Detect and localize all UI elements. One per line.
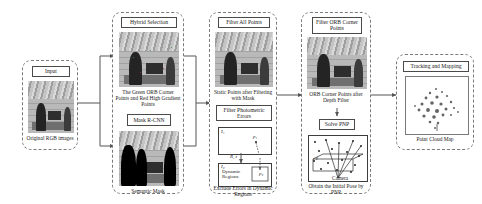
stage-filter-orb-corner-points[interactable]: Filter ORB Corner Points ORB Corner Poin… (301, 12, 371, 194)
input-thumbnail (28, 81, 74, 133)
stage-tracking-title: Tracking and Mapping (403, 61, 469, 72)
pnp-plane-label: I (316, 156, 318, 161)
stage-hybrid-selection[interactable]: Hybrid Selection The Green ORB Corner Po… (112, 12, 184, 194)
orb-gradient-points-thumbnail (119, 32, 179, 87)
stage-input[interactable]: Input Original RGB images (22, 60, 78, 150)
hybrid-selection-caption-bottom: Semantic Mask (113, 188, 183, 194)
semantic-mask-thumbnail (119, 131, 179, 186)
camera-label: Camera (332, 175, 348, 181)
hybrid-selection-caption-top: The Green ORB Corner Points and Red High… (113, 89, 183, 107)
dynamic-regions-label: Dynamic Regions (222, 169, 248, 180)
stage-filter-all-points[interactable]: Filter All Points Static Points after Fi… (209, 12, 277, 194)
pipeline-diagram: Input Original RGB images Hybrid Selecti… (0, 0, 482, 204)
point-cloud-map-thumbnail (405, 76, 469, 135)
stage-tracking-and-mapping[interactable]: Tracking and Mapping (396, 54, 474, 150)
mask-rcnn-box[interactable]: Mask R-CNN (127, 114, 171, 126)
dynamic-region-figure: I₂ p₂ Dynamic Regions (218, 163, 272, 187)
stage-input-title: Input (32, 66, 70, 77)
filter-orb-caption-bottom: Obtain the Initial Pose by PNP (302, 183, 370, 195)
solve-pnp-box[interactable]: Solve PNP (319, 119, 355, 130)
stage-hybrid-selection-title: Hybrid Selection (121, 17, 177, 28)
stage-input-caption: Original RGB images (23, 135, 77, 141)
tracking-caption: Point Cloud Map (397, 136, 473, 142)
filter-all-points-caption-bottom: Exclude Errors in Dynamic Regions (210, 185, 276, 197)
